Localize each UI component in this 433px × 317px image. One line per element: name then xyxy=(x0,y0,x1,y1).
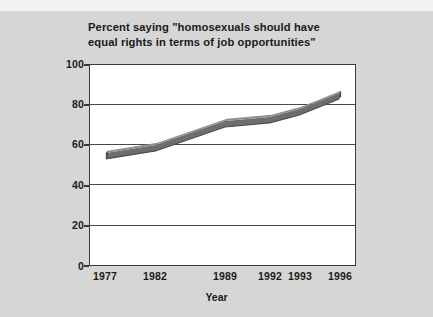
chart-figure: Percent saying "homosexuals should have … xyxy=(0,0,433,317)
y-tick-label-100: 100 xyxy=(56,58,84,70)
x-tick-label-1993: 1993 xyxy=(279,270,321,282)
x-tick-label-1996: 1996 xyxy=(319,270,361,282)
y-tick-label-20: 20 xyxy=(56,219,84,231)
x-tick-label-1989: 1989 xyxy=(204,270,246,282)
x-tick-label-1977: 1977 xyxy=(84,270,126,282)
x-axis-title: Year xyxy=(0,291,433,303)
series-band-front xyxy=(106,93,339,159)
data-series-line xyxy=(90,65,355,265)
y-tick-label-40: 40 xyxy=(56,179,84,191)
y-tick-label-60: 60 xyxy=(56,138,84,150)
x-tick-label-1982: 1982 xyxy=(134,270,176,282)
plot-area xyxy=(89,64,356,266)
y-tick-label-80: 80 xyxy=(56,98,84,110)
y-tick-label-0: 0 xyxy=(56,260,84,272)
chart-title: Percent saying "homosexuals should have … xyxy=(88,20,356,49)
